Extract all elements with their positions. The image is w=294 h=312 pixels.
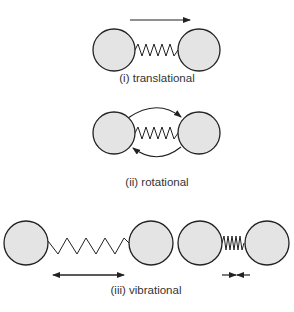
spring: [135, 127, 178, 139]
atom-compressed-right: [245, 221, 289, 265]
atom-right: [178, 112, 220, 154]
rotation-arrow-bottom: [133, 147, 181, 157]
panel-vibrational: (iii) vibrational: [4, 221, 289, 296]
rotation-arrow-top: [128, 108, 181, 118]
atom-left: [93, 112, 135, 154]
label-vibrational: (iii) vibrational: [111, 284, 182, 296]
atom-compressed-left: [178, 221, 222, 265]
atom-stretched-left: [4, 221, 48, 265]
atom-right: [178, 29, 220, 71]
label-translational: (i) translational: [119, 72, 194, 84]
atom-stretched-right: [129, 221, 173, 265]
atom-left: [93, 29, 135, 71]
panel-translational: (i) translational: [93, 20, 220, 84]
spring-stretched: [48, 238, 129, 254]
panel-rotational: (ii) rotational: [93, 108, 220, 188]
spring-compressed: [222, 236, 244, 250]
molecular-motion-diagram: (i) translational (ii) rotational (iii) …: [0, 0, 294, 312]
label-rotational: (ii) rotational: [125, 176, 188, 188]
spring: [135, 44, 178, 56]
